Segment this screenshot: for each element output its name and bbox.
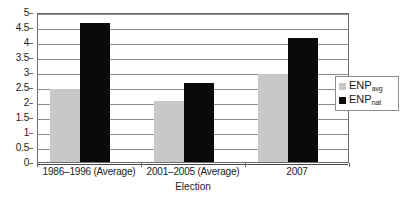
bar-ENPavg xyxy=(258,74,288,163)
bar-ENPavg xyxy=(50,89,80,162)
legend-label: ENPavg xyxy=(349,79,383,93)
x-tick-label: 2001–2005 (Average) xyxy=(147,166,240,178)
y-tick-label: 4.5 xyxy=(16,23,29,33)
y-tick-label: 3.5 xyxy=(16,53,29,63)
plot-area xyxy=(37,13,349,163)
y-tick-label: 1.5 xyxy=(16,113,29,123)
legend-item: ENPnat xyxy=(339,93,395,107)
y-tick-mark xyxy=(29,73,33,74)
bar-group xyxy=(142,14,246,162)
y-tick-mark xyxy=(29,88,33,89)
x-tick-label: 2007 xyxy=(286,166,307,178)
x-axis: 1986–1996 (Average)2001–2005 (Average)20… xyxy=(37,166,349,180)
x-tick-mark xyxy=(37,163,38,167)
bar-group xyxy=(38,14,142,162)
bar-ENPnat xyxy=(184,83,214,162)
y-tick-mark xyxy=(29,148,33,149)
y-tick-mark xyxy=(29,28,33,29)
bar-ENPavg xyxy=(154,101,184,162)
legend-label: ENPnat xyxy=(349,93,381,107)
y-tick-mark xyxy=(29,43,33,44)
bars-layer xyxy=(38,14,348,162)
y-axis: 00.511.522.533.544.55 xyxy=(0,13,33,163)
bar-ENPnat xyxy=(80,23,110,162)
legend-item: ENPavg xyxy=(339,79,395,93)
x-tick-mark xyxy=(349,163,350,167)
legend-swatch-icon xyxy=(339,83,346,90)
x-tick-mark xyxy=(245,163,246,167)
legend-swatch-icon xyxy=(339,97,346,104)
legend: ENPavgENPnat xyxy=(335,76,399,111)
y-tick-mark xyxy=(29,58,33,59)
bar-ENPnat xyxy=(288,38,318,162)
x-axis-title: Election xyxy=(37,181,349,193)
x-tick-label: 1986–1996 (Average) xyxy=(43,166,136,178)
y-tick-label: 2.5 xyxy=(16,83,29,93)
y-tick-mark xyxy=(29,118,33,119)
y-tick-mark xyxy=(29,133,33,134)
x-tick-mark xyxy=(141,163,142,167)
y-tick-mark xyxy=(29,163,33,164)
y-tick-mark xyxy=(29,13,33,14)
gridline xyxy=(38,164,348,165)
bar-chart: 00.511.522.533.544.55 1986–1996 (Average… xyxy=(0,0,408,199)
y-tick-mark xyxy=(29,103,33,104)
y-tick-label: 0.5 xyxy=(16,143,29,153)
